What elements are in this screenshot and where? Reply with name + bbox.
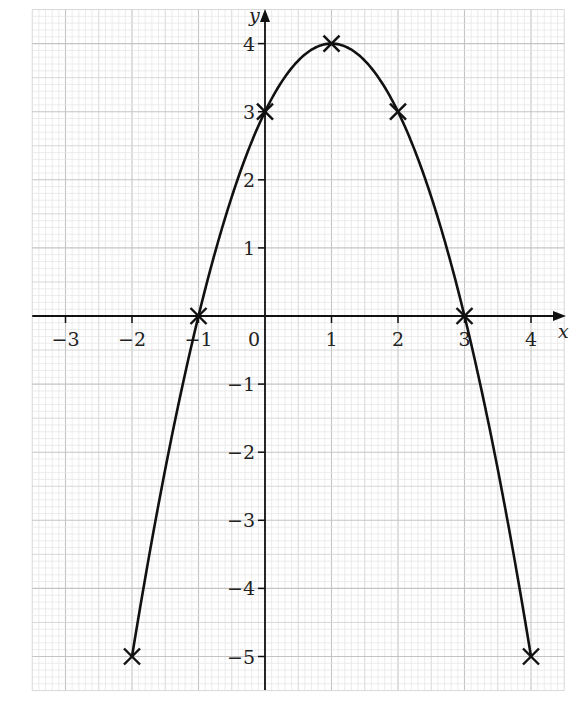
y-tick-label: −3 — [227, 509, 255, 531]
y-tick-label: 3 — [243, 101, 255, 123]
y-tick-label: −2 — [227, 441, 255, 463]
y-tick-label: −4 — [227, 577, 255, 599]
y-tick-label: 4 — [243, 33, 255, 55]
x-tick-label: −1 — [184, 328, 212, 350]
y-tick-label: 1 — [243, 237, 255, 259]
x-tick-label: 1 — [325, 328, 337, 350]
graph-paper-grid — [32, 10, 564, 691]
x-tick-label: 0 — [248, 328, 260, 350]
y-tick-label: −1 — [227, 373, 255, 395]
x-tick-label: 4 — [525, 328, 537, 350]
x-axis-label: x — [558, 320, 569, 342]
y-axis-arrow-icon — [260, 9, 270, 22]
x-tick-label: −2 — [118, 328, 146, 350]
x-tick-label: 2 — [392, 328, 404, 350]
y-tick-label: −5 — [227, 646, 255, 668]
y-axis-label: y — [248, 4, 260, 26]
parabola-chart: −3−2−1012344321−1−2−3−4−5 x y — [0, 0, 583, 710]
x-tick-label: −3 — [51, 328, 79, 350]
y-tick-label: 2 — [243, 169, 255, 191]
